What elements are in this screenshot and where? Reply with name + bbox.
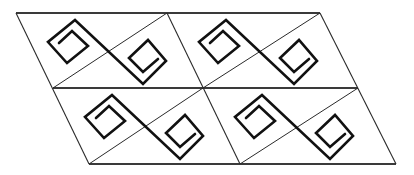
spiral-motif-cell-r1-c2 — [199, 20, 317, 84]
spiral-motif-cell-r2-c2 — [235, 95, 353, 159]
tiling-diagram — [0, 0, 414, 175]
